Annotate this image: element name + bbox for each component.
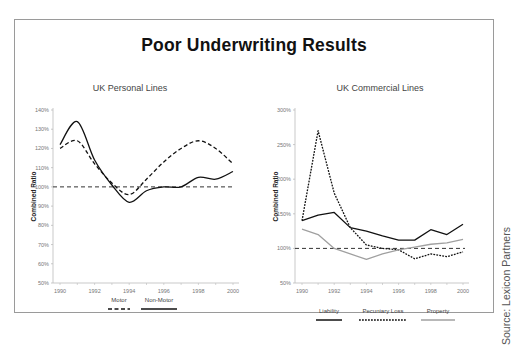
series-line-pecuniary-loss	[302, 131, 463, 259]
x-tick-label: 1992	[328, 288, 340, 294]
y-tick-label: 150%	[277, 211, 291, 217]
y-tick-label: 300%	[277, 107, 291, 113]
x-tick-label: 2000	[457, 288, 469, 294]
legend-label: Pecuniary Loss	[362, 308, 403, 314]
x-tick-label: 1998	[425, 288, 437, 294]
x-tick-label: 1990	[296, 288, 308, 294]
y-tick-label: 50%	[280, 280, 291, 286]
x-tick-label: 1996	[392, 288, 404, 294]
x-tick-label: 1994	[360, 288, 372, 294]
legend-label: Property	[427, 308, 450, 314]
y-tick-label: 250%	[277, 142, 291, 148]
right-chart: 50%100%150%200%250%300%19901992199419961…	[0, 0, 516, 351]
legend-label: Liability	[319, 308, 339, 314]
series-line-liability	[302, 212, 463, 240]
y-axis-label: Combined Ratio	[272, 172, 279, 222]
y-tick-label: 100%	[277, 245, 291, 251]
source-note: Source: Lexicon Partners	[500, 227, 512, 345]
y-tick-label: 200%	[277, 176, 291, 182]
series-line-property	[302, 229, 463, 259]
